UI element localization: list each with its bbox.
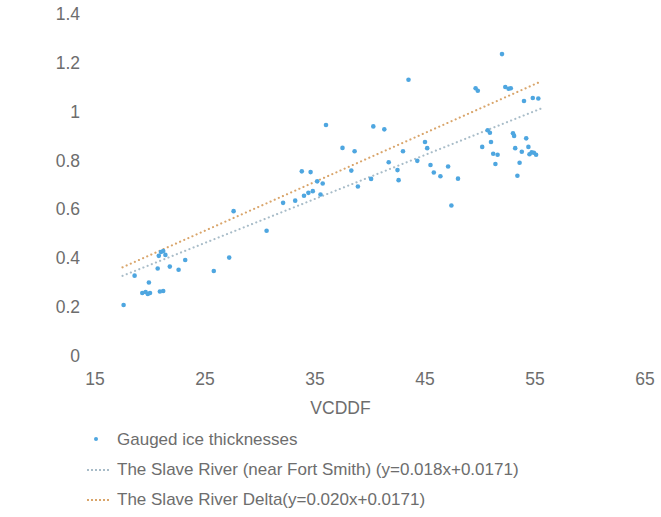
data-point — [132, 273, 137, 278]
data-point — [449, 203, 454, 208]
data-point — [527, 152, 532, 157]
data-point — [311, 189, 316, 194]
legend-label: The Slave River Delta(y=0.020x+0.0171) — [117, 491, 425, 508]
data-point — [396, 178, 401, 183]
data-point — [517, 160, 522, 165]
data-point — [121, 303, 126, 308]
legend-marker — [94, 437, 98, 441]
data-point — [352, 149, 357, 154]
x-axis-tick-label: 45 — [395, 371, 455, 389]
data-point — [168, 264, 173, 269]
data-point — [161, 249, 166, 254]
data-point — [163, 253, 168, 258]
plot-area — [0, 0, 661, 400]
data-point — [371, 124, 376, 129]
data-point — [369, 177, 374, 182]
data-point — [161, 289, 166, 294]
data-point — [511, 131, 516, 136]
data-point — [503, 85, 508, 90]
data-point — [506, 86, 511, 91]
legend-line-icon — [86, 492, 112, 506]
data-point — [281, 201, 286, 206]
data-point — [529, 150, 534, 155]
data-point — [401, 149, 406, 154]
data-point — [143, 290, 148, 295]
data-point — [157, 254, 162, 259]
legend-item[interactable]: The Slave River (near Fort Smith) (y=0.0… — [86, 454, 661, 484]
data-point — [438, 174, 443, 179]
data-point — [406, 77, 411, 82]
y-axis-tick-label: 0.2 — [32, 299, 80, 317]
data-point — [489, 140, 494, 145]
data-point — [340, 146, 345, 151]
y-axis-tick-label: 1.2 — [32, 55, 80, 73]
trendline — [123, 109, 541, 276]
data-point — [308, 170, 313, 175]
data-point — [159, 250, 164, 255]
data-point — [491, 151, 496, 156]
data-point — [356, 184, 361, 189]
data-point — [349, 168, 354, 173]
legend-dot-icon — [86, 432, 112, 446]
trendline — [123, 82, 541, 268]
y-axis-tick-label: 0.6 — [32, 202, 80, 220]
data-point — [493, 162, 498, 167]
data-point — [531, 96, 536, 101]
data-point — [524, 136, 529, 141]
data-point — [425, 146, 430, 151]
data-point — [176, 267, 181, 272]
data-point — [320, 181, 325, 186]
data-point — [428, 163, 433, 168]
data-point — [231, 209, 236, 214]
y-axis-tick-label: 0 — [32, 348, 80, 366]
data-point — [488, 130, 493, 135]
data-point — [480, 145, 485, 150]
data-point — [382, 127, 387, 132]
data-point — [300, 169, 305, 174]
data-point — [532, 150, 537, 155]
data-point — [158, 289, 163, 294]
data-point — [140, 291, 145, 296]
data-point — [293, 198, 298, 203]
data-point — [456, 176, 461, 181]
data-point — [473, 86, 478, 91]
x-axis-tick-label: 65 — [615, 371, 661, 389]
x-axis-tick-label: 25 — [175, 371, 235, 389]
x-axis-tick-label: 15 — [65, 371, 125, 389]
data-point — [509, 86, 514, 91]
y-axis-tick-label: 1 — [32, 104, 80, 122]
chart-legend: Gauged ice thicknessesThe Slave River (n… — [86, 424, 661, 514]
data-point — [476, 88, 481, 93]
data-point — [148, 291, 153, 296]
data-point — [264, 228, 269, 233]
x-axis-title: VCDDF — [0, 398, 661, 419]
data-point — [386, 160, 391, 165]
legend-marker — [87, 499, 109, 501]
data-point — [513, 146, 518, 151]
data-point — [146, 292, 151, 297]
data-point — [415, 159, 420, 164]
y-axis-tick-label: 0.8 — [32, 153, 80, 171]
legend-marker — [87, 469, 109, 471]
data-point — [155, 266, 160, 271]
x-axis-tick-labels: 152535455565 — [0, 371, 661, 397]
data-point — [515, 173, 520, 178]
data-point — [423, 140, 428, 145]
legend-label: The Slave River (near Fort Smith) (y=0.0… — [117, 461, 519, 478]
legend-item[interactable]: The Slave River Delta(y=0.020x+0.0171) — [86, 484, 661, 514]
data-point — [446, 164, 451, 169]
data-point — [318, 192, 323, 197]
data-point — [526, 145, 531, 150]
data-point — [183, 258, 188, 263]
data-point — [432, 170, 437, 175]
data-point — [534, 152, 539, 157]
x-axis-tick-label: 55 — [505, 371, 565, 389]
scatter-chart-figure: Ice thicknesses(m) 00.20.40.60.811.21.4 … — [0, 0, 661, 517]
legend-item[interactable]: Gauged ice thicknesses — [86, 424, 661, 454]
data-point — [324, 123, 329, 128]
data-point — [212, 269, 217, 274]
data-point — [522, 99, 527, 104]
data-point — [520, 150, 525, 155]
data-point — [395, 168, 400, 173]
data-point — [306, 191, 311, 196]
